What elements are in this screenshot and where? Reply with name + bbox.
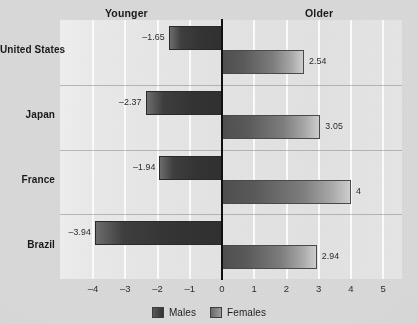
legend-item-females[interactable]: Females: [210, 307, 266, 318]
x-tick-label: –3: [120, 283, 131, 294]
category-label: United States: [0, 44, 55, 55]
bar-male: [159, 156, 222, 180]
value-label-male: –1.65: [139, 32, 165, 42]
legend-item-males[interactable]: Males: [152, 307, 196, 318]
bar-female: [222, 115, 320, 139]
value-label-male: –1.94: [129, 162, 155, 172]
x-tick-label: 1: [252, 283, 257, 294]
bar-female: [222, 180, 351, 204]
bar-male: [169, 26, 222, 50]
legend: Males Females: [0, 303, 418, 321]
category-label: France: [0, 174, 55, 185]
value-label-female: 4: [356, 186, 361, 196]
legend-label-males: Males: [169, 307, 196, 318]
legend-swatch-females-icon: [210, 307, 222, 318]
category-label: Japan: [0, 109, 55, 120]
row-separator: [60, 214, 402, 215]
cropped-title-remnant: [0, 0, 418, 5]
value-label-female: 2.94: [322, 251, 340, 261]
value-label-female: 2.54: [309, 56, 327, 66]
chart-figure: Younger Older United StatesJapanFranceBr…: [0, 0, 418, 324]
x-tick-label: –4: [88, 283, 99, 294]
value-label-female: 3.05: [325, 121, 343, 131]
legend-swatch-males-icon: [152, 307, 164, 318]
x-tick-label: –2: [152, 283, 163, 294]
x-tick-label: 0: [219, 283, 224, 294]
legend-label-females: Females: [227, 307, 266, 318]
x-axis: –4–3–2–1012345: [0, 283, 418, 297]
bar-male: [146, 91, 222, 115]
bar-female: [222, 245, 317, 269]
x-tick-label: –1: [184, 283, 195, 294]
zero-axis-line: [221, 19, 223, 280]
x-tick-label: 4: [348, 283, 353, 294]
category-label: Brazil: [0, 239, 55, 250]
value-label-male: –2.37: [116, 97, 142, 107]
younger-header: Younger: [105, 7, 148, 19]
bar-male: [95, 221, 222, 245]
older-header: Older: [305, 7, 333, 19]
value-label-male: –3.94: [65, 227, 91, 237]
bar-female: [222, 50, 304, 74]
x-tick-label: 2: [284, 283, 289, 294]
plot-area: [60, 20, 402, 279]
row-separator: [60, 85, 402, 86]
x-tick-label: 3: [316, 283, 321, 294]
row-separator: [60, 150, 402, 151]
x-tick-label: 5: [381, 283, 386, 294]
